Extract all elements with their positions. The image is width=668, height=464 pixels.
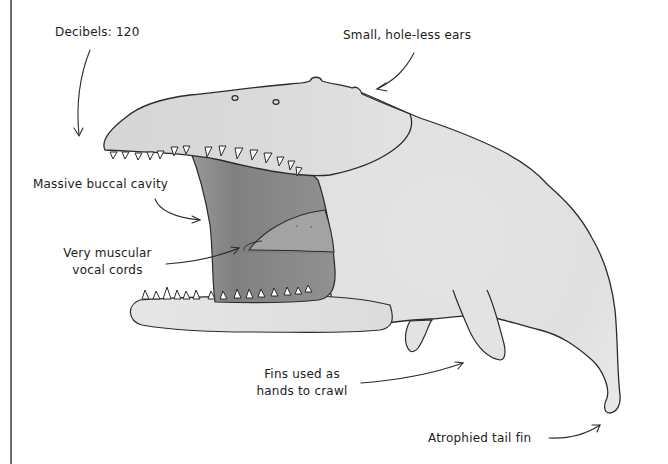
label-fins-line2: hands to crawl bbox=[248, 383, 356, 400]
arrow-tail bbox=[549, 425, 600, 438]
label-tail-fin: Atrophied tail fin bbox=[428, 430, 531, 447]
label-vocal-cords-line1: Very muscular bbox=[55, 245, 160, 262]
speckle bbox=[310, 226, 312, 228]
label-ears: Small, hole-less ears bbox=[343, 27, 471, 44]
label-vocal-cords-line2: vocal cords bbox=[55, 262, 160, 279]
label-fins: Fins used as hands to crawl bbox=[248, 366, 356, 400]
label-fins-line1: Fins used as bbox=[248, 366, 356, 383]
arrow-decibels bbox=[78, 50, 90, 135]
speckle bbox=[296, 225, 298, 227]
label-buccal-cavity: Massive buccal cavity bbox=[33, 176, 168, 193]
small-fin bbox=[406, 320, 433, 352]
label-vocal-cords: Very muscular vocal cords bbox=[55, 245, 160, 279]
arrow-fins bbox=[361, 363, 463, 383]
label-decibels: Decibels: 120 bbox=[55, 24, 140, 41]
illustration-canvas: Decibels: 120 Small, hole-less ears Mass… bbox=[0, 0, 668, 464]
arrow-ears bbox=[377, 53, 414, 89]
